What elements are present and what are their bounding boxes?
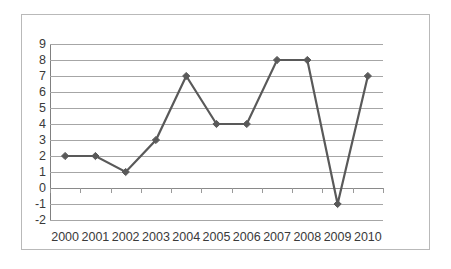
series-line <box>65 60 368 204</box>
x-axis-tick-label: 2006 <box>232 231 262 244</box>
data-point-marker <box>304 56 311 63</box>
y-axis-tick-label: 2 <box>22 150 46 163</box>
y-axis-tick-label: 7 <box>22 70 46 83</box>
y-axis-tick-label: 9 <box>22 38 46 51</box>
y-axis-tick-label: 1 <box>22 166 46 179</box>
x-axis-tick-label: 2005 <box>201 231 231 244</box>
y-axis-tick-label: 6 <box>22 86 46 99</box>
y-axis-tick-labels: 9876543210-1-2 <box>20 44 46 220</box>
data-point-marker <box>364 72 371 79</box>
x-axis-tick-label: 2007 <box>262 231 292 244</box>
x-axis-tick-label: 2009 <box>322 231 352 244</box>
line-series <box>50 44 383 220</box>
y-axis-tick-label: -2 <box>22 214 46 227</box>
y-axis-tick-label: 3 <box>22 134 46 147</box>
x-axis-tick-label: 2003 <box>141 231 171 244</box>
y-axis-tick-label: 0 <box>22 182 46 195</box>
y-axis-tick-label: 5 <box>22 102 46 115</box>
x-axis-tick-label: 2000 <box>50 231 80 244</box>
x-axis-tick-label: 2004 <box>171 231 201 244</box>
data-point-marker <box>243 120 250 127</box>
x-axis-tick-labels: 2000200120022003200420052006200720082009… <box>50 231 383 249</box>
chart-figure: 9876543210-1-2 2000200120022003200420052… <box>0 0 451 269</box>
y-axis-tick-label: 4 <box>22 118 46 131</box>
y-axis-tick-label: 8 <box>22 54 46 67</box>
y-axis-tick-label: -1 <box>22 198 46 211</box>
data-point-marker <box>62 152 69 159</box>
x-axis-tick-label: 2001 <box>80 231 110 244</box>
x-axis-tick-label: 2010 <box>353 231 383 244</box>
x-axis-tick-label: 2002 <box>111 231 141 244</box>
x-axis-tick-label: 2008 <box>292 231 322 244</box>
plot-area <box>50 44 383 220</box>
data-point-marker <box>334 200 341 207</box>
gridline <box>50 220 383 221</box>
x-axis-tick <box>383 188 384 193</box>
data-point-marker <box>273 56 280 63</box>
